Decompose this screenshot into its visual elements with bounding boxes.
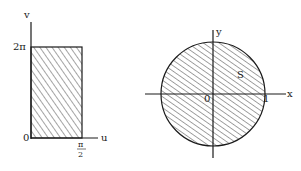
rectangle-region: [31, 47, 82, 138]
right-bound-numerator: π: [78, 140, 83, 149]
x-axis-label: x: [287, 88, 293, 99]
v-axis-label: v: [23, 9, 30, 20]
radius-mark-label: 1: [263, 93, 269, 104]
right-bound-denominator: 2: [78, 150, 83, 159]
top-bound-label: 2π: [13, 41, 26, 52]
origin-label: 0: [204, 93, 210, 104]
figure-canvas: v u 2π 0 π 2 y x 0 1 S: [0, 0, 301, 171]
origin-label: 0: [23, 132, 29, 143]
xy-diagram: y x 0 1 S: [145, 26, 293, 158]
u-axis-label: u: [101, 132, 108, 143]
region-name-label: S: [237, 69, 244, 80]
uv-diagram: v u 2π 0 π 2: [13, 9, 108, 159]
y-axis-label: y: [215, 26, 222, 37]
